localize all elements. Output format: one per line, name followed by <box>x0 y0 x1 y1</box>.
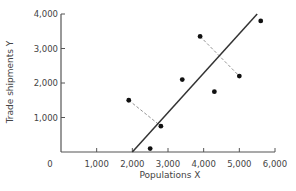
tick-marks: 01,0002,0003,0004,0005,0006,0001,0002,00… <box>34 9 288 169</box>
data-point <box>258 19 263 24</box>
regression-line <box>132 14 257 152</box>
data-point <box>198 34 203 39</box>
data-point <box>180 77 185 82</box>
x-tick-label: 1,000 <box>84 159 108 169</box>
y-tick-label: 3,000 <box>34 44 58 54</box>
x-tick-label: 5,000 <box>227 159 251 169</box>
data-point <box>212 89 217 94</box>
residual-lines <box>129 36 240 126</box>
data-points <box>126 19 263 151</box>
x-tick-label: 0 <box>47 159 52 169</box>
data-point <box>126 98 131 103</box>
scatter-chart: 01,0002,0003,0004,0005,0006,0001,0002,00… <box>0 0 296 191</box>
fit-line <box>132 14 257 152</box>
residual-line <box>129 100 161 126</box>
data-point <box>158 124 163 129</box>
y-tick-label: 1,000 <box>34 113 58 123</box>
data-point <box>237 74 242 79</box>
x-tick-label: 6,000 <box>263 159 287 169</box>
y-axis-title: Trade shipments Y <box>5 40 15 124</box>
x-tick-label: 2,000 <box>120 159 144 169</box>
x-axis-title: Populations X <box>139 170 200 180</box>
x-tick-label: 4,000 <box>191 159 215 169</box>
x-tick-label: 3,000 <box>156 159 180 169</box>
axes <box>61 14 275 152</box>
data-point <box>148 146 153 151</box>
y-tick-label: 2,000 <box>34 78 58 88</box>
y-tick-label: 4,000 <box>34 9 58 19</box>
